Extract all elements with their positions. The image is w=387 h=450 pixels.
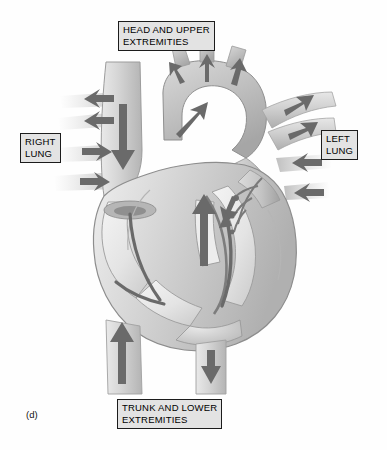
- label-right-lung: RIGHT LUNG: [20, 133, 61, 163]
- label-trunk-and-lower-extremities: TRUNK AND LOWER EXTREMITIES: [117, 399, 222, 429]
- label-left-lung: LEFT LUNG: [321, 130, 358, 160]
- heart-diagram-illustration: [0, 0, 387, 450]
- heart-circulation-figure: HEAD AND UPPER EXTREMITIES RIGHT LUNG LE…: [0, 0, 387, 450]
- heart-body: [93, 162, 296, 350]
- label-head-and-upper-extremities: HEAD AND UPPER EXTREMITIES: [118, 21, 215, 51]
- panel-letter: (d): [26, 409, 38, 420]
